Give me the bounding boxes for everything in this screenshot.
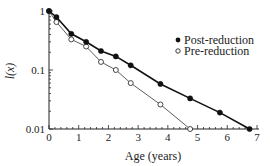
legend-marker-post (176, 38, 181, 43)
survivorship-chart: 0123456710.10.01 Post-reduction Pre-redu… (0, 0, 270, 166)
data-point (113, 54, 118, 59)
data-point (188, 127, 193, 132)
x-tick-label: 6 (225, 131, 231, 143)
y-tick-label: 0.01 (26, 123, 45, 135)
x-tick-label: 0 (46, 131, 52, 143)
data-point (128, 63, 133, 68)
legend-marker-pre (176, 49, 180, 53)
data-point (69, 31, 74, 36)
data-point (54, 14, 59, 19)
plot-series (46, 8, 252, 131)
y-axis-label: l(x) (3, 63, 17, 80)
series-pre-reduction (47, 9, 193, 132)
data-point (99, 59, 104, 64)
data-point (247, 126, 252, 131)
data-point (158, 102, 163, 107)
data-point (84, 39, 89, 44)
x-tick-label: 2 (106, 131, 112, 143)
data-point (98, 48, 103, 53)
data-point (84, 44, 89, 49)
x-tick-label: 5 (195, 131, 201, 143)
series-post-reduction (46, 8, 252, 131)
data-point (158, 81, 163, 86)
x-tick-label: 1 (76, 131, 82, 143)
y-tick-label: 0.1 (31, 64, 45, 76)
x-tick-label: 4 (165, 131, 171, 143)
x-tick-label: 7 (254, 131, 260, 143)
y-tick-label: 1 (40, 5, 46, 17)
data-point (188, 96, 193, 101)
x-axis-label: Age (years) (125, 149, 181, 163)
x-tick-label: 3 (135, 131, 141, 143)
data-point (113, 68, 118, 73)
axes: 0123456710.10.01 (26, 5, 261, 143)
data-point (46, 8, 51, 13)
data-point (69, 37, 74, 42)
data-point (54, 20, 59, 25)
legend: Post-reduction Pre-reduction (176, 33, 254, 58)
data-point (217, 110, 222, 115)
data-point (128, 81, 133, 86)
legend-label-pre: Pre-reduction (184, 44, 249, 58)
series-line (49, 11, 190, 129)
